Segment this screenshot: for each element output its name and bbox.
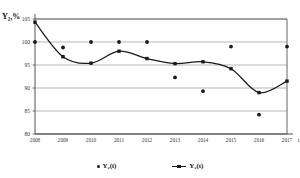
dot-marker-icon [97,165,100,168]
y-tick-label: 105 [14,16,30,22]
y-tick-label: 85 [14,108,30,114]
legend-label-line: Y₂(t) [189,162,203,170]
legend-label-scatter: Y₂(i) [103,162,117,170]
x-tick-label: 2015 [218,137,244,143]
x-tick-label: 2013 [162,137,188,143]
x-tick-label: 2014 [190,137,216,143]
x-tick-label: 2012 [134,137,160,143]
y-tick-label: 80 [14,131,30,137]
x-tick-label: 2008 [22,137,48,143]
y-tick-label: 100 [14,39,30,45]
chart-plot-area [0,0,300,178]
legend-item-line: Y₂(t) [172,162,203,170]
x-tick-label: 2017 [274,137,300,143]
x-axis-title: t, і [298,137,300,143]
chart-container: Y₂,% 10510095908580 20082009201020112012… [0,0,300,178]
x-tick-label: 2016 [246,137,272,143]
chart-legend: Y₂(i) Y₂(t) [0,156,300,176]
x-tick-label: 2010 [78,137,104,143]
line-square-marker-icon [172,165,186,168]
x-tick-label: 2009 [50,137,76,143]
x-tick-label: 2011 [106,137,132,143]
legend-item-scatter: Y₂(i) [97,162,117,170]
y-tick-label: 95 [14,62,30,68]
y-tick-label: 90 [14,85,30,91]
